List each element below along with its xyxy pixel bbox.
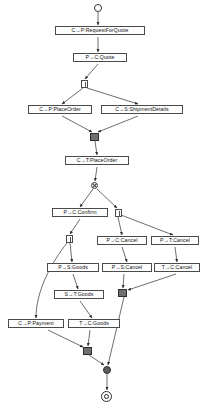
activity-node-cp-payment[interactable]: C→P:Payment (8, 319, 64, 328)
final-state-node (101, 391, 112, 402)
edge-confirm-fork3 (70, 219, 80, 234)
activity-node-place-order[interactable]: C→P:PlaceOrder (28, 105, 92, 114)
activity-node-tc-cancel[interactable]: T→C:Cancel (154, 263, 200, 272)
edge-pccancel-pscancel (122, 247, 127, 262)
edge-pscancel-join2 (123, 274, 124, 288)
edge-fork2-ptcancel (121, 215, 173, 235)
activity-node-tc-goods[interactable]: T→C:Goods (68, 319, 120, 328)
activity-node-quote[interactable]: P→C:Quote (73, 53, 127, 62)
activity-node-st-goods[interactable]: S→T:Goods (54, 290, 104, 299)
activity-node-shipment-details[interactable]: C→S:ShipmentDetails (101, 105, 183, 114)
fork-node-after-quote (81, 80, 88, 88)
join-node-cancel-branch (118, 289, 127, 297)
edge-quote-fork1 (85, 64, 98, 79)
activity-node-pc-cancel[interactable]: P→C:Cancel (97, 236, 147, 245)
edge-fork3-psgoods (70, 243, 72, 262)
edge-ptcancel-tccancel (175, 247, 177, 262)
edge-join3-merge1 (89, 355, 104, 365)
edge-shipdetails-join1 (98, 116, 138, 132)
edge-join1-tplaceorder (95, 141, 97, 155)
edge-fork2-pccancel (118, 217, 122, 235)
merge-node-final (103, 366, 111, 374)
join-node-order-details (90, 133, 99, 141)
edge-tplaceorder-xor1 (95, 167, 97, 181)
fork-node-confirm-branch (66, 235, 73, 243)
join-node-fulfilment (83, 347, 92, 355)
edge-fork1-shipdetails (87, 88, 138, 104)
activity-node-confirm[interactable]: P→C:Confirm (52, 208, 108, 217)
edge-cppayment-join3 (48, 330, 83, 347)
edge-fork3-cppayment (36, 243, 67, 318)
edge-placeorder-join1 (62, 116, 92, 132)
final-state-inner (104, 394, 109, 399)
decision-node-confirm-or-cancel (91, 182, 98, 189)
edge-xor1-fork2 (97, 189, 117, 208)
edge-psgoods-stgoods (73, 274, 78, 289)
initial-state-node (94, 4, 102, 12)
edge-stgoods-tcgoods (80, 301, 92, 318)
activity-node-request-for-quote[interactable]: C→P:RequestForQuote (55, 26, 145, 35)
edge-tcgoods-join3 (88, 330, 90, 346)
activity-node-ps-cancel[interactable]: P→S:Cancel (102, 263, 152, 272)
edge-tccancel-join2 (128, 274, 176, 290)
edge-join2-merge1 (108, 297, 124, 365)
activity-node-ps-goods[interactable]: P→S:Goods (47, 263, 99, 272)
activity-node-pt-cancel[interactable]: P→T:Cancel (151, 236, 199, 245)
edge-fork1-placeorder (62, 88, 83, 104)
edge-xor1-confirm (80, 189, 93, 207)
fork-node-cancel-branch (115, 209, 122, 217)
activity-node-t-place-order[interactable]: C→T:PlaceOrder (65, 156, 129, 165)
activity-diagram-canvas: C→P:RequestForQuote P→C:Quote C→P:PlaceO… (0, 0, 206, 412)
